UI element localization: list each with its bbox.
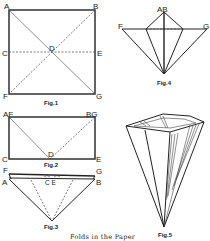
fig3-dash-left [31, 180, 52, 221]
fig4-title: Fig.4 [157, 80, 172, 86]
fig3-label-g: G [96, 167, 102, 176]
fig1-title: Fig.1 [44, 100, 59, 106]
fig1-label-e: E [97, 49, 102, 58]
fig3-label-b: B [96, 178, 101, 187]
fig3-label-f: F [3, 166, 8, 175]
fig5-rim [126, 114, 204, 132]
figure-3: F G A B C E Fig.3 [2, 166, 102, 230]
fig5-title: Fig.5 [158, 232, 173, 238]
figure-2: AF BG C D E Fig.2 [2, 110, 101, 168]
fig4-label-ab: AB [157, 5, 168, 14]
fig2-title: Fig.2 [44, 162, 59, 168]
fig5-edge-4 [145, 130, 164, 227]
fig1-label-c: C [2, 49, 8, 58]
fig4-label-f: F [118, 22, 123, 31]
fig4-edge-right-outer [164, 29, 207, 74]
diagram-caption: Folds in the Paper [70, 233, 136, 241]
fig3-title: Fig.3 [44, 224, 59, 230]
figure-4: AB F G Fig.4 [118, 5, 209, 86]
fig4-edge-left-outer [122, 29, 164, 74]
fig1-label-b: B [93, 2, 98, 11]
fig3-top-edge-fg [9, 174, 95, 176]
fig3-label-ce: C E [45, 179, 57, 186]
fig4-edge-left-inner [146, 29, 164, 74]
fig2-label-c: C [2, 155, 8, 164]
figure-1: A B C D E F G Fig.1 [2, 2, 102, 106]
fig3-label-a: A [2, 178, 8, 187]
fig1-label-g: G [96, 92, 102, 101]
fig2-label-bg: BG [86, 110, 98, 119]
fig2-label-e: E [96, 155, 101, 164]
fig2-label-af: AF [3, 110, 13, 119]
figure-5: Fig.5 [126, 114, 204, 238]
fig2-fold-left [9, 117, 50, 159]
fig1-label-f: F [3, 92, 8, 101]
fig3-dash-right [52, 180, 73, 221]
fig2-label-d: D [48, 150, 54, 159]
fig3-center-folds [44, 176, 60, 178]
paper-folds-diagram: A B C D E F G Fig.1 AF BG C D E Fig.2 F … [0, 0, 210, 241]
fig4-edge-right-inner [164, 29, 183, 74]
fig1-label-d: D [49, 44, 55, 53]
fig2-fold-right [50, 117, 95, 159]
fig1-label-a: A [4, 2, 10, 11]
fig4-label-g: G [203, 22, 209, 31]
fig5-edge-1 [126, 126, 164, 227]
